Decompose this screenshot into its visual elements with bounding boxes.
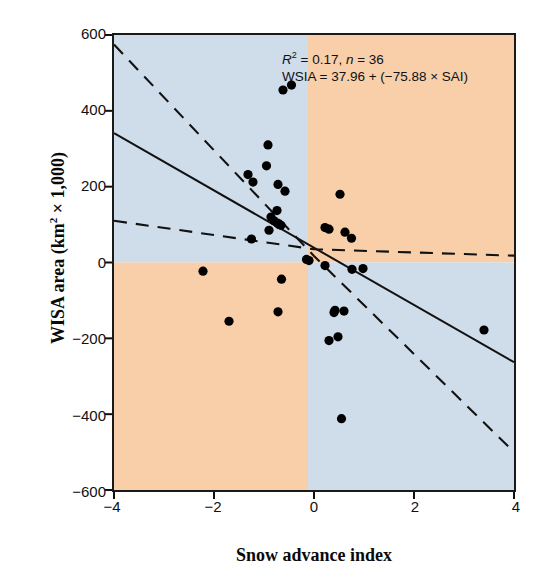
axis-tick-marks [0, 0, 536, 579]
chart-figure: WISA area (km2 × 1,000) 600 400 200 0 −2… [0, 0, 536, 579]
